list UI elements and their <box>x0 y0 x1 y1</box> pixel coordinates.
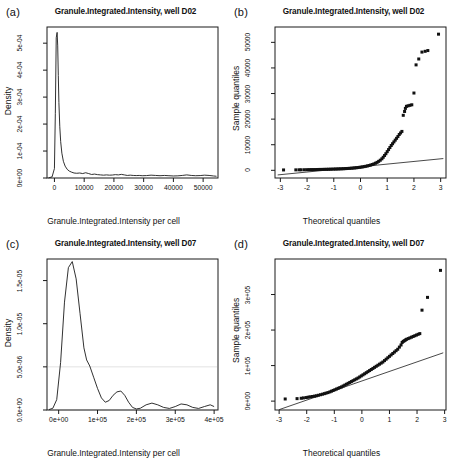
x-tick-label: 2e+05 <box>127 416 146 423</box>
qq-point <box>420 51 423 54</box>
y-tick-label: 1.0e-05 <box>15 304 25 344</box>
y-tick-label: 2e+05 <box>243 310 253 350</box>
y-axis-title: Sample quantiles <box>231 303 241 363</box>
x-tick-label: 3 <box>439 184 443 191</box>
x-tick-label: 40000 <box>164 184 183 191</box>
y-axis-title: Density <box>3 71 13 131</box>
plot-frame <box>47 259 218 410</box>
y-tick-label: 1e+05 <box>243 346 253 386</box>
qq-point <box>282 168 285 171</box>
panel-d-plot-area <box>228 232 455 464</box>
y-tick-label: 5.0e-06 <box>15 347 25 387</box>
panel-d-qq-d07: (d) Granule.Integrated.Intensity, well D… <box>228 232 455 464</box>
panel-c-density-d07: (c) Granule.Integrated.Intensity, well D… <box>0 232 227 464</box>
panel-b-plot-area <box>228 0 455 232</box>
plot-frame <box>47 27 218 178</box>
qq-point <box>400 130 403 133</box>
y-axis-title: Sample quantiles <box>231 71 241 131</box>
x-tick-label: -1 <box>331 184 337 191</box>
qq-point <box>418 332 421 335</box>
panel-d-svg <box>228 232 455 464</box>
y-tick-label: 5e-04 <box>15 23 25 63</box>
x-tick-label: 0e+00 <box>49 416 68 423</box>
panel-c-plot-area <box>0 232 227 464</box>
qq-point <box>410 103 413 106</box>
x-tick-label: 4e+05 <box>205 416 224 423</box>
y-tick-label: 0e+00 <box>243 381 253 421</box>
x-tick-label: 2 <box>412 184 416 191</box>
x-axis-title: Theoretical quantiles <box>228 216 455 226</box>
density-curve <box>49 262 214 410</box>
x-tick-label: 2 <box>415 416 419 423</box>
y-axis-title: Density <box>3 303 13 363</box>
qq-reference-line <box>279 353 443 410</box>
x-tick-label: -3 <box>276 416 282 423</box>
y-tick-label: 50000 <box>243 22 253 62</box>
y-tick-label: 1.5e-05 <box>15 261 25 301</box>
panel-c-svg <box>0 232 227 464</box>
panel-b-svg <box>228 0 455 232</box>
x-tick-label: 0 <box>359 184 363 191</box>
qq-point <box>426 49 429 52</box>
x-tick-label: 50000 <box>194 184 213 191</box>
qq-point <box>421 309 424 312</box>
x-tick-label: 1 <box>388 416 392 423</box>
x-tick-label: 30000 <box>134 184 153 191</box>
qq-point <box>439 269 442 272</box>
x-axis-title: Granule.Integrated.Intensity per cell <box>0 448 227 458</box>
qq-point <box>415 63 418 66</box>
qq-point <box>417 57 420 60</box>
density-curve <box>48 32 216 177</box>
qq-point <box>403 110 406 113</box>
qq-point <box>402 114 405 117</box>
panel-a-svg <box>0 0 227 232</box>
x-tick-label: 10000 <box>75 184 94 191</box>
x-tick-label: 20000 <box>104 184 123 191</box>
panel-a-plot-area <box>0 0 227 232</box>
panel-a-density-d02: (a) Granule.Integrated.Intensity, well D… <box>0 0 227 232</box>
qq-point <box>437 33 440 36</box>
x-tick-label: -1 <box>331 416 337 423</box>
x-tick-label: 1 <box>385 184 389 191</box>
y-tick-label: 3e+05 <box>243 275 253 315</box>
qq-point <box>300 168 303 171</box>
qq-point <box>302 396 305 399</box>
qq-point <box>424 50 427 53</box>
qq-point <box>284 397 287 400</box>
qq-point <box>294 168 297 171</box>
qq-point <box>303 168 306 171</box>
x-tick-label: -2 <box>304 184 310 191</box>
qq-point <box>296 397 299 400</box>
x-axis-title: Granule.Integrated.Intensity per cell <box>0 216 227 226</box>
plot-frame <box>275 27 446 178</box>
x-axis-title: Theoretical quantiles <box>228 448 455 458</box>
x-tick-label: 0 <box>53 184 57 191</box>
y-tick-label: 0.0e+00 <box>15 390 25 430</box>
x-tick-label: 3 <box>443 416 447 423</box>
x-tick-label: -2 <box>304 416 310 423</box>
panel-b-qq-d02: (b) Granule.Integrated.Intensity, well D… <box>228 0 455 232</box>
figure-panel-grid: (a) Granule.Integrated.Intensity, well D… <box>0 0 455 464</box>
x-tick-label: -3 <box>277 184 283 191</box>
qq-point <box>426 296 429 299</box>
x-tick-label: 1e+05 <box>88 416 107 423</box>
x-tick-label: 3e+05 <box>166 416 185 423</box>
qq-point <box>412 92 415 95</box>
x-tick-label: 0 <box>360 416 364 423</box>
